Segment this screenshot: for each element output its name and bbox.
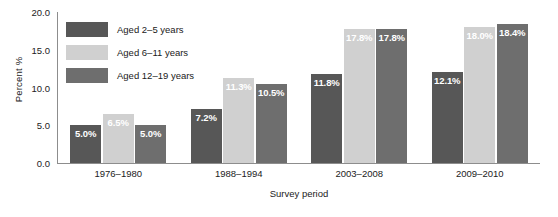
bar: 11.8%: [311, 74, 342, 163]
bar-value-label: 11.8%: [311, 77, 342, 88]
y-axis-tick-label: 10.0: [32, 82, 51, 93]
y-axis-tick-labels: 0.05.010.015.020.0: [0, 0, 54, 217]
bar-value-label: 18.0%: [464, 30, 495, 41]
bar: 17.8%: [376, 29, 407, 163]
legend-swatch-icon: [66, 22, 108, 37]
y-axis-tick-label: 20.0: [32, 7, 51, 18]
legend-swatch-icon: [66, 45, 108, 60]
bar: 6.5%: [103, 114, 134, 163]
x-axis-tick-label: 1976–1980: [94, 168, 142, 179]
bar-group: 12.1%18.0%18.4%: [420, 12, 541, 163]
x-axis-tick-label: 1988–1994: [215, 168, 263, 179]
legend-item-label: Aged 2–5 years: [117, 24, 184, 35]
bar-value-label: 12.1%: [432, 75, 463, 86]
y-axis-tick-label: 0.0: [37, 158, 50, 169]
x-axis-tick-label: 2003–2008: [335, 168, 383, 179]
legend-item-label: Aged 6–11 years: [117, 47, 188, 58]
bar-value-label: 7.2%: [191, 112, 222, 123]
legend-item: Aged 2–5 years: [66, 19, 194, 39]
x-axis-tick-labels: 1976–19801988–19942003–20082009–2010: [58, 168, 540, 184]
chart-legend: Aged 2–5 yearsAged 6–11 yearsAged 12–19 …: [66, 19, 194, 88]
bar: 7.2%: [191, 109, 222, 163]
bar-value-label: 17.8%: [344, 32, 375, 43]
bar: 18.4%: [497, 24, 528, 163]
bar: 10.5%: [256, 84, 287, 163]
x-axis-title: Survey period: [58, 188, 540, 199]
legend-item: Aged 6–11 years: [66, 42, 194, 62]
legend-item-label: Aged 12–19 years: [117, 70, 194, 81]
bar-value-label: 18.4%: [497, 27, 528, 38]
bar: 11.3%: [223, 78, 254, 163]
bar: 12.1%: [432, 72, 463, 163]
bar-chart: Percent % 0.05.010.015.020.0 5.0%6.5%5.0…: [0, 0, 558, 217]
legend-swatch-icon: [66, 68, 108, 83]
bar-value-label: 17.8%: [376, 32, 407, 43]
bar-group: 11.8%17.8%17.8%: [299, 12, 420, 163]
bar: 18.0%: [464, 27, 495, 163]
legend-item: Aged 12–19 years: [66, 65, 194, 85]
x-axis-tick-label: 2009–2010: [456, 168, 504, 179]
x-axis-line: [57, 163, 540, 164]
y-axis-tick-label: 5.0: [37, 120, 50, 131]
bar: 17.8%: [344, 29, 375, 163]
bar-group: 7.2%11.3%10.5%: [179, 12, 300, 163]
bar-value-label: 5.0%: [70, 128, 101, 139]
bar-value-label: 6.5%: [103, 117, 134, 128]
bar: 5.0%: [135, 125, 166, 163]
y-axis-tick-label: 15.0: [32, 44, 51, 55]
bar-value-label: 5.0%: [135, 128, 166, 139]
bar-value-label: 10.5%: [256, 87, 287, 98]
bar: 5.0%: [70, 125, 101, 163]
bar-value-label: 11.3%: [223, 81, 254, 92]
